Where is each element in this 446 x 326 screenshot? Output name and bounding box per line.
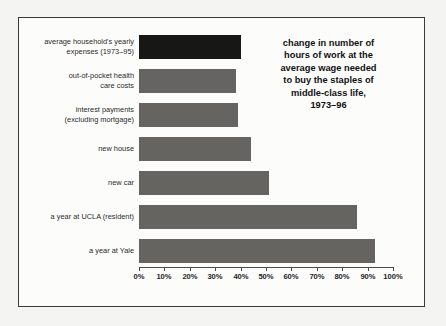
bar	[139, 69, 236, 93]
bar-category-label: interest payments (excluding mortgage)	[30, 105, 134, 124]
x-axis-tick	[393, 267, 394, 271]
bar-category-label: new house	[30, 144, 134, 154]
bar-row: a year at Yale	[139, 239, 393, 263]
bar-category-label: a year at Yale	[30, 246, 134, 256]
x-axis-tick-label: 40%	[233, 272, 248, 281]
bar	[139, 205, 357, 229]
x-axis-tick	[291, 267, 292, 271]
x-axis-tick-label: 0%	[134, 272, 145, 281]
bar	[139, 35, 241, 59]
bar	[139, 137, 251, 161]
x-axis-tick-label: 90%	[360, 272, 375, 281]
x-axis-tick	[241, 267, 242, 271]
x-axis-tick-label: 80%	[334, 272, 349, 281]
bar-category-label: out-of-pocket health care costs	[30, 71, 134, 90]
x-axis-tick-label: 30%	[207, 272, 222, 281]
x-axis-tick-label: 70%	[309, 272, 324, 281]
x-axis-tick-label: 20%	[182, 272, 197, 281]
bar-row: new car	[139, 171, 393, 195]
x-axis-tick-label: 100%	[383, 272, 402, 281]
bar-row: a year at UCLA (resident)	[139, 205, 393, 229]
bar-category-label: average household's yearly expenses (197…	[30, 37, 134, 56]
bar	[139, 103, 238, 127]
x-axis-tick	[368, 267, 369, 271]
x-axis-tick	[266, 267, 267, 271]
bar	[139, 239, 375, 263]
bar-category-label: new car	[30, 178, 134, 188]
x-axis-tick-label: 50%	[258, 272, 273, 281]
bar-row: new house	[139, 137, 393, 161]
chart-figure: average household's yearly expenses (197…	[18, 17, 425, 307]
x-axis-tick	[164, 267, 165, 271]
chart-title: change in number of hours of work at the…	[251, 37, 406, 111]
x-axis-tick	[215, 267, 216, 271]
x-axis-tick	[139, 267, 140, 271]
bar-chart-plot: average household's yearly expenses (197…	[19, 18, 424, 306]
x-axis-tick	[190, 267, 191, 271]
x-axis-tick-label: 60%	[283, 272, 298, 281]
bar	[139, 171, 269, 195]
x-axis-tick	[317, 267, 318, 271]
x-axis-tick-label: 10%	[156, 272, 171, 281]
x-axis-tick	[342, 267, 343, 271]
bar-category-label: a year at UCLA (resident)	[30, 212, 134, 222]
